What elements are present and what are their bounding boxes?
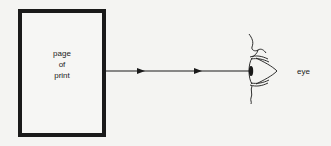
reading-diagram: page of print eye (0, 0, 331, 146)
eye-icon (249, 34, 277, 104)
eye-label: eye (297, 67, 310, 76)
arrowhead-icon (194, 68, 202, 74)
pupil-icon (249, 66, 253, 76)
arrowhead-icon (137, 68, 145, 74)
ray-and-eye-drawing (0, 0, 331, 146)
